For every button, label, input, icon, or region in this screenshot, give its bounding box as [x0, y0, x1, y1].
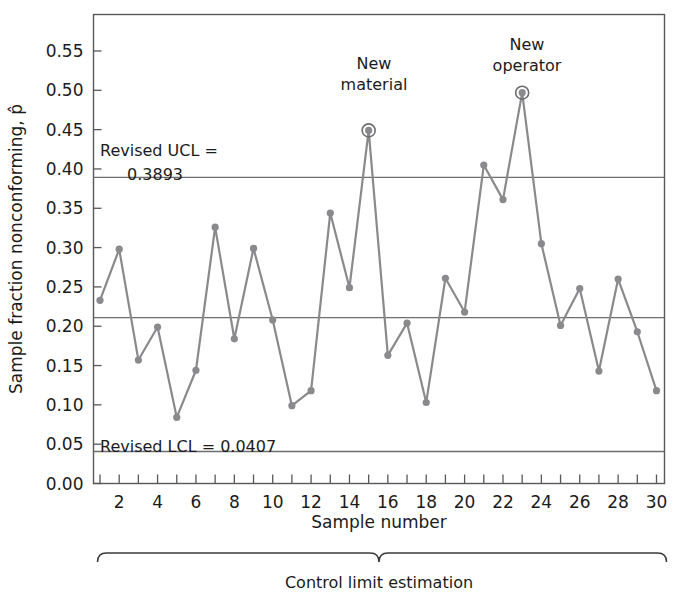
y-tick-label: 0.40 — [46, 159, 84, 179]
data-point-sample-2 — [116, 246, 123, 253]
data-point-sample-19 — [442, 275, 449, 282]
y-axis-title: Sample fraction nonconforming, p̂ — [6, 104, 26, 394]
x-tick-label: 16 — [377, 492, 399, 512]
lcl-label: Revised LCL = 0.0407 — [100, 437, 276, 456]
data-point-sample-15 — [365, 127, 372, 134]
data-point-sample-9 — [250, 245, 257, 252]
annotation-new-material-line2: material — [341, 75, 408, 94]
x-axis-title: Sample number — [311, 512, 447, 532]
y-tick-label: 0.20 — [46, 316, 84, 336]
x-tick-label: 18 — [415, 492, 437, 512]
y-tick-label: 0.30 — [46, 238, 84, 258]
data-point-sample-18 — [423, 399, 430, 406]
x-tick-label: 22 — [492, 492, 514, 512]
y-tick-label: 0.35 — [46, 198, 84, 218]
data-point-sample-6 — [192, 367, 199, 374]
x-tick-label: 2 — [114, 492, 125, 512]
y-tick-label: 0.55 — [46, 41, 84, 61]
data-point-sample-5 — [173, 414, 180, 421]
data-point-sample-4 — [154, 323, 161, 330]
data-point-sample-11 — [288, 402, 295, 409]
x-tick-label: 4 — [152, 492, 163, 512]
control-limit-estimation-bracket — [98, 553, 667, 562]
data-point-sample-26 — [576, 285, 583, 292]
y-tick-label: 0.50 — [46, 80, 84, 100]
annotation-new-material-line1: New — [357, 54, 392, 73]
x-tick-label: 28 — [607, 492, 629, 512]
data-point-sample-7 — [212, 224, 219, 231]
x-tick-label: 30 — [646, 492, 668, 512]
x-tick-label: 6 — [191, 492, 202, 512]
ucl-label-line1: Revised UCL = — [100, 141, 218, 160]
x-tick-label: 8 — [229, 492, 240, 512]
y-tick-label: 0.10 — [46, 395, 84, 415]
p-chart-svg: 0.000.050.100.150.200.250.300.350.400.45… — [0, 0, 693, 596]
data-point-sample-3 — [135, 356, 142, 363]
data-point-sample-1 — [96, 297, 103, 304]
y-tick-label: 0.00 — [46, 474, 84, 494]
data-point-sample-23 — [519, 89, 526, 96]
data-point-sample-25 — [557, 322, 564, 329]
x-tick-label: 12 — [300, 492, 322, 512]
data-point-sample-29 — [634, 328, 641, 335]
x-tick-label: 14 — [339, 492, 361, 512]
x-tick-label: 24 — [531, 492, 553, 512]
x-axis-ticks: 24681012141618202224262830 — [100, 475, 667, 512]
data-point-sample-13 — [327, 209, 334, 216]
data-point-sample-20 — [461, 308, 468, 315]
data-point-sample-16 — [384, 352, 391, 359]
ucl-label-line2: 0.3893 — [127, 165, 183, 184]
annotation-new-operator-line1: New — [510, 35, 545, 54]
data-point-sample-10 — [269, 316, 276, 323]
y-tick-label: 0.45 — [46, 120, 84, 140]
control-chart-figure: 0.000.050.100.150.200.250.300.350.400.45… — [0, 0, 693, 596]
data-point-sample-21 — [480, 161, 487, 168]
data-point-sample-28 — [615, 275, 622, 282]
x-tick-label: 20 — [454, 492, 476, 512]
data-point-sample-24 — [538, 240, 545, 247]
data-point-sample-27 — [595, 367, 602, 374]
data-point-sample-30 — [653, 387, 660, 394]
bracket-caption: Control limit estimation — [285, 573, 473, 592]
data-point-sample-12 — [307, 387, 314, 394]
x-tick-label: 26 — [569, 492, 591, 512]
data-point-sample-17 — [403, 319, 410, 326]
x-tick-label: 10 — [262, 492, 284, 512]
y-tick-label: 0.15 — [46, 356, 84, 376]
y-tick-label: 0.05 — [46, 434, 84, 454]
data-point-sample-22 — [499, 196, 506, 203]
data-point-sample-8 — [231, 335, 238, 342]
data-point-sample-14 — [346, 284, 353, 291]
annotation-new-operator-line2: operator — [493, 56, 562, 75]
y-tick-label: 0.25 — [46, 277, 84, 297]
